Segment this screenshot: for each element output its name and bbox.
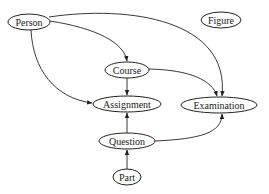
class-diagram: Person Figure Course Assignment Examinat… xyxy=(0,0,269,194)
node-figure: Figure xyxy=(201,12,241,28)
edge-person-course xyxy=(50,21,127,61)
node-label: Part xyxy=(119,172,135,183)
node-label: Person xyxy=(15,17,42,28)
node-assignment: Assignment xyxy=(93,96,161,112)
node-examination: Examination xyxy=(181,97,257,113)
node-part: Part xyxy=(113,169,141,185)
edge-question-examination xyxy=(155,114,222,141)
node-label: Question xyxy=(109,136,145,147)
node-question: Question xyxy=(99,133,155,149)
node-label: Figure xyxy=(208,15,235,26)
node-course: Course xyxy=(105,62,149,78)
edge-person-assignment xyxy=(31,30,92,103)
node-label: Course xyxy=(113,65,142,76)
node-label: Examination xyxy=(193,100,244,111)
edge-course-examination xyxy=(149,69,217,96)
node-label: Assignment xyxy=(103,99,151,110)
node-person: Person xyxy=(8,14,50,30)
